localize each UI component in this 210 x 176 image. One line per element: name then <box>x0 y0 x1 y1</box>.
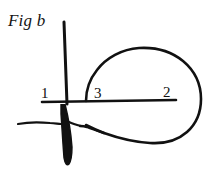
left-tail-path <box>18 122 61 124</box>
large-thread-loop-path <box>86 48 201 143</box>
figure-canvas: Fig b 1 3 2 <box>0 0 210 176</box>
point-label-3: 3 <box>94 86 102 101</box>
figure-caption: Fig b <box>8 12 45 29</box>
loop-notch-path <box>69 122 81 126</box>
point-label-2: 2 <box>163 85 171 100</box>
needle-shaft-path <box>64 22 67 104</box>
horizontal-thread-path <box>42 100 176 102</box>
point-label-1: 1 <box>41 86 49 101</box>
narrow-suture-loop-path <box>61 104 72 165</box>
